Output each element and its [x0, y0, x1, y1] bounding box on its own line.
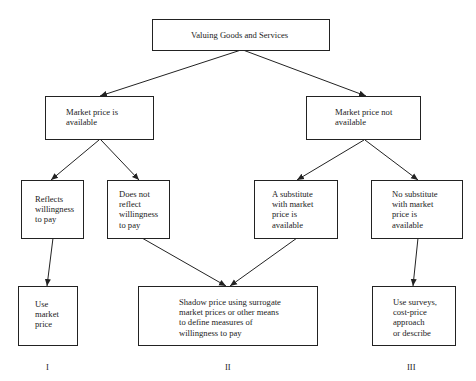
node-label: Market price is available — [66, 107, 118, 127]
node-label: Use surveys, cost-price approach or desc… — [393, 297, 437, 338]
root-label: Valuing Goods and Services — [191, 30, 288, 40]
node-does-not-reflect: Does not reflect willingness to pay — [107, 180, 170, 239]
node-label: Does not reflect willingness to pay — [119, 189, 158, 230]
root-node: Valuing Goods and Services — [152, 19, 330, 51]
node-label: Shadow price using surrogate market pric… — [179, 297, 281, 338]
node-label: Reflects willingness to pay — [35, 194, 74, 225]
node-label: Market price not available — [335, 107, 392, 127]
node-reflects-willingness: Reflects willingness to pay — [21, 180, 84, 239]
node-substitute-available: A substitute with market price is availa… — [254, 180, 338, 239]
category-label-i: I — [46, 362, 49, 372]
node-label: Use market price — [35, 299, 59, 330]
outcome-use-market-price: Use market price — [18, 286, 78, 346]
node-label: No substitute with market price is avail… — [392, 189, 438, 230]
outcome-shadow-price: Shadow price using surrogate market pric… — [138, 286, 318, 346]
node-no-substitute: No substitute with market price is avail… — [371, 180, 463, 239]
node-market-price-not-available: Market price not available — [306, 96, 421, 140]
outcome-use-surveys: Use surveys, cost-price approach or desc… — [372, 286, 456, 346]
node-market-price-available: Market price is available — [45, 96, 154, 140]
category-label-ii: II — [225, 362, 231, 372]
category-label-iii: III — [407, 362, 416, 372]
node-label: A substitute with market price is availa… — [272, 189, 313, 230]
